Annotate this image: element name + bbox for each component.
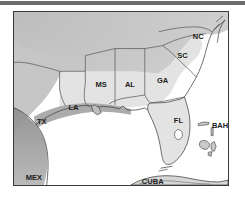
- top-scan-rule: [0, 1, 245, 5]
- map-frame: TX LA MS AL GA FL SC NC MEX CUBA BAH: [13, 11, 229, 186]
- map-label-ga: GA: [157, 76, 169, 85]
- bahamas-island-5: [208, 151, 212, 156]
- map-label-tx: TX: [37, 117, 47, 126]
- map-label-fl: FL: [174, 116, 184, 125]
- map-label-bah: BAH: [212, 121, 228, 130]
- lake-okeechobee: [175, 130, 183, 140]
- map-label-sc: SC: [177, 51, 188, 60]
- map-label-al: AL: [125, 80, 135, 89]
- map-label-cuba: CUBA: [142, 177, 164, 185]
- screenshot-root: TX LA MS AL GA FL SC NC MEX CUBA BAH: [0, 0, 245, 197]
- map-label-mex: MEX: [26, 173, 42, 182]
- map-label-ms: MS: [96, 80, 107, 89]
- map-svg: TX LA MS AL GA FL SC NC MEX CUBA BAH: [14, 12, 228, 185]
- map-label-la: LA: [68, 103, 79, 112]
- map-label-nc: NC: [193, 32, 204, 41]
